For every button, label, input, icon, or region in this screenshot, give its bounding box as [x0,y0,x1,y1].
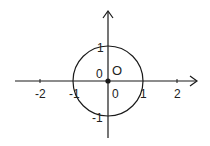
x-label-pos1: 1 [140,87,147,101]
x-label-neg2: -2 [35,87,46,101]
coordinate-diagram: -2 -1 0 1 2 1 0 -1 O [0,0,210,146]
x-label-pos2: 2 [174,87,181,101]
y-label-neg1: -1 [92,111,103,125]
y-label-zero: 0 [96,67,103,81]
origin-point [105,78,110,83]
y-label-pos1: 1 [97,41,104,55]
x-label-neg1: -1 [69,87,80,101]
x-label-zero: 0 [112,87,119,101]
origin-label: O [112,63,122,78]
